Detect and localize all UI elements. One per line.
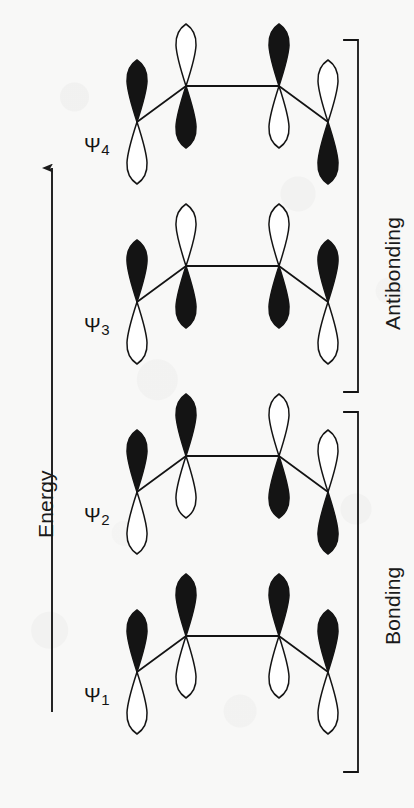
lobe-bottom-filled bbox=[176, 266, 196, 328]
orbital-label-index: 3 bbox=[101, 321, 109, 338]
p-orbital-psi1-atom1 bbox=[127, 610, 147, 734]
bond-skeleton-psi4 bbox=[137, 86, 328, 122]
orbital-label-psi3: Ψ3 bbox=[84, 314, 109, 337]
lobe-top-filled bbox=[176, 394, 196, 456]
lobe-bottom-empty bbox=[269, 636, 289, 698]
lobe-bottom-filled bbox=[176, 86, 196, 148]
lobe-bottom-filled bbox=[269, 456, 289, 518]
lobe-top-filled bbox=[127, 610, 147, 672]
lobe-top-empty bbox=[269, 394, 289, 456]
p-orbital-psi1-atom4 bbox=[318, 610, 338, 734]
lobe-bottom-empty bbox=[127, 492, 147, 554]
p-orbital-psi2-atom1 bbox=[127, 430, 147, 554]
lobe-bottom-filled bbox=[269, 266, 289, 328]
lobe-bottom-empty bbox=[127, 122, 147, 184]
bracket-antibonding bbox=[344, 40, 358, 392]
orbital-label-psi2: Ψ2 bbox=[84, 504, 109, 527]
bracket-bonding bbox=[344, 412, 358, 772]
orbital-row-psi3 bbox=[127, 204, 338, 364]
bond-skeleton-psi1 bbox=[137, 636, 328, 672]
orbital-label-symbol: Ψ bbox=[84, 134, 101, 156]
orbital-label-psi4: Ψ4 bbox=[84, 134, 109, 157]
p-orbital-psi2-atom4 bbox=[318, 430, 338, 554]
p-orbital-psi3-atom1 bbox=[127, 240, 147, 364]
lobe-bottom-filled bbox=[318, 122, 338, 184]
lobe-top-filled bbox=[269, 24, 289, 86]
orbital-label-symbol: Ψ bbox=[84, 504, 101, 526]
p-orbital-psi4-atom4 bbox=[318, 60, 338, 184]
orbital-row-psi1 bbox=[127, 574, 338, 734]
orbital-label-index: 2 bbox=[101, 511, 109, 528]
lobe-top-empty bbox=[269, 204, 289, 266]
lobe-top-filled bbox=[269, 574, 289, 636]
lobe-top-empty bbox=[318, 60, 338, 122]
mo-diagram-figure: Energy Antibonding Bonding Ψ1Ψ2Ψ3Ψ4 bbox=[0, 0, 414, 808]
orbital-row-psi2 bbox=[127, 394, 338, 554]
antibonding-bracket-label: Antibonding bbox=[381, 217, 405, 330]
orbital-row-psi4 bbox=[127, 24, 338, 184]
p-orbital-psi4-atom1 bbox=[127, 60, 147, 184]
bond-skeleton-psi2 bbox=[137, 456, 328, 492]
lobe-top-filled bbox=[127, 240, 147, 302]
orbital-rows bbox=[127, 24, 338, 734]
lobe-top-empty bbox=[176, 24, 196, 86]
lobe-bottom-empty bbox=[318, 672, 338, 734]
lobe-bottom-empty bbox=[127, 302, 147, 364]
lobe-bottom-empty bbox=[269, 86, 289, 148]
lobe-bottom-filled bbox=[318, 492, 338, 554]
lobe-bottom-empty bbox=[176, 636, 196, 698]
lobe-top-filled bbox=[318, 240, 338, 302]
lobe-bottom-empty bbox=[318, 302, 338, 364]
lobe-top-filled bbox=[176, 574, 196, 636]
lobe-top-empty bbox=[318, 430, 338, 492]
lobe-top-empty bbox=[176, 204, 196, 266]
orbital-label-symbol: Ψ bbox=[84, 314, 101, 336]
bond-skeleton-psi3 bbox=[137, 266, 328, 302]
energy-axis-label: Energy bbox=[34, 470, 58, 538]
lobe-bottom-empty bbox=[127, 672, 147, 734]
bracket-group bbox=[344, 40, 358, 772]
orbital-label-symbol: Ψ bbox=[84, 684, 101, 706]
p-orbital-psi3-atom4 bbox=[318, 240, 338, 364]
orbital-label-psi1: Ψ1 bbox=[84, 684, 109, 707]
lobe-top-filled bbox=[318, 610, 338, 672]
lobe-top-filled bbox=[127, 430, 147, 492]
bonding-bracket-label: Bonding bbox=[381, 567, 405, 645]
lobe-bottom-empty bbox=[176, 456, 196, 518]
orbital-label-index: 4 bbox=[101, 141, 109, 158]
lobe-top-filled bbox=[127, 60, 147, 122]
mo-diagram-canvas bbox=[0, 0, 414, 808]
bracket-outline-bonding bbox=[344, 412, 358, 772]
bracket-outline-antibonding bbox=[344, 40, 358, 392]
orbital-label-index: 1 bbox=[101, 691, 109, 708]
